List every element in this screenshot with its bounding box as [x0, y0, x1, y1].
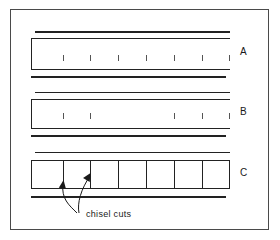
panel-c-rule-top-thin: [31, 160, 230, 161]
panel-a-left-edge: [31, 38, 32, 69]
panel-a-chisel-tick: [90, 55, 91, 61]
panel-c-segment-divider: [63, 160, 64, 188]
panel-b-chisel-tick: [202, 113, 203, 119]
figure-canvas: A B C chisel: [0, 0, 280, 240]
panel-b-rule-top-thick: [35, 92, 230, 93]
panel-c-right-edge: [229, 160, 230, 188]
panel-label-a: A: [240, 47, 247, 57]
panel-c-segment-divider: [202, 160, 203, 188]
panel-b-rule-top-thin: [31, 99, 230, 100]
panel-a-chisel-tick: [118, 55, 119, 61]
panel-b-rule-bottom-thick: [31, 135, 226, 137]
panel-a-chisel-tick: [229, 55, 230, 61]
panel-b-chisel-tick: [229, 113, 230, 119]
panel-c-left-edge: [31, 160, 32, 188]
panel-c-rule-top-thick: [35, 152, 230, 153]
panel-b-chisel-tick: [90, 113, 91, 119]
chisel-cuts-caption: chisel cuts: [86, 209, 131, 219]
panel-a-chisel-tick: [146, 55, 147, 61]
panel-label-c: C: [240, 168, 248, 178]
panel-c-rule-bottom-thick: [31, 196, 226, 198]
panel-c-rule-bottom-thin: [31, 188, 230, 189]
panel-a-rule-top-thick: [35, 31, 230, 33]
panel-b-chisel-tick: [63, 113, 64, 119]
panel-a-chisel-tick: [174, 55, 175, 61]
panel-a-rule-bottom-thick: [31, 76, 226, 78]
panel-b-left-edge: [31, 99, 32, 128]
panel-c-segment-divider: [146, 160, 147, 188]
panel-b-rule-bottom-thin: [31, 128, 230, 129]
panel-a-chisel-tick: [202, 55, 203, 61]
panel-c-segment-divider: [90, 160, 91, 188]
panel-c-segment-divider: [118, 160, 119, 188]
panel-a-rule-bottom-thin: [31, 69, 230, 70]
panel-b-chisel-tick: [174, 113, 175, 119]
panel-a-chisel-tick: [63, 55, 64, 61]
panel-c-segment-divider: [174, 160, 175, 188]
panel-label-b: B: [240, 107, 247, 117]
panel-a-rule-top-thin: [31, 38, 230, 39]
